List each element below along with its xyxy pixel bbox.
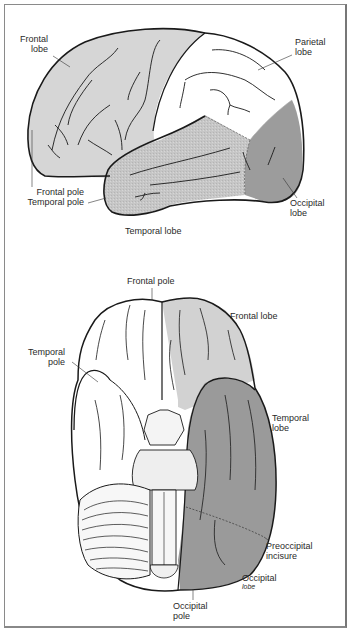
- label-frontal-pole: Frontal pole: [24, 187, 84, 197]
- label-inferior-occipital-lobe: Occipital lobe: [242, 573, 277, 591]
- label-frontal-lobe: Frontal lobe: [20, 34, 48, 54]
- label-occipital-pole: Occipital pole: [173, 601, 208, 621]
- label-parietal-lobe: Parietal lobe: [295, 37, 326, 57]
- label-temporal-pole: Temporal pole: [20, 197, 84, 207]
- label-occipital-lobe: Occipital lobe: [290, 198, 325, 218]
- label-inferior-frontal-lobe: Frontal lobe: [230, 311, 278, 321]
- cerebellum: [78, 484, 150, 579]
- label-inferior-temporal-pole: Temporal pole: [20, 347, 65, 367]
- label-inferior-frontal-pole: Frontal pole: [127, 276, 175, 286]
- label-preoccipital-incisure: Preoccipital incisure: [266, 541, 313, 561]
- label-inferior-temporal-lobe: Temporal lobe: [272, 413, 309, 433]
- brain-diagram: [0, 0, 353, 634]
- inferior-view: [72, 288, 277, 600]
- label-temporal-lobe: Temporal lobe: [125, 226, 182, 236]
